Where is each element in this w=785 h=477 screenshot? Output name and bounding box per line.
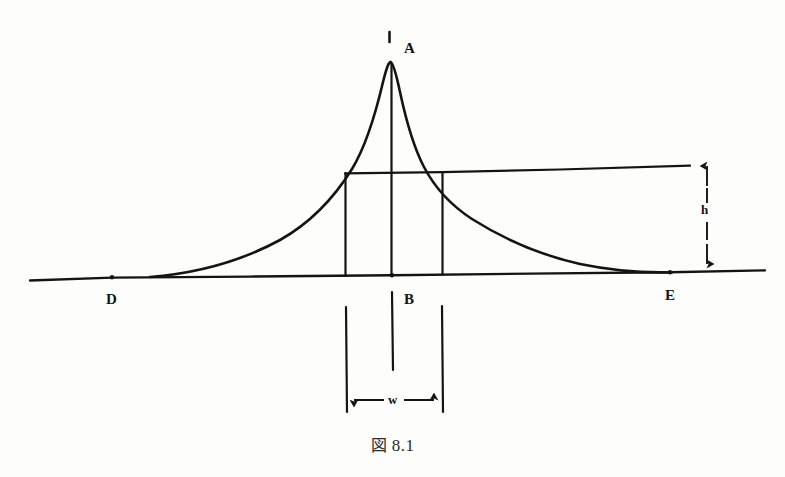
label-height-h: h	[701, 203, 708, 216]
label-point-e: E	[665, 288, 675, 303]
caption-symbol: 図	[371, 436, 388, 455]
label-point-b: B	[404, 292, 414, 307]
point-b-dot	[390, 273, 394, 277]
figure-panel: A B D E h w 図 8.1	[0, 0, 785, 477]
width-right-projection	[442, 306, 443, 412]
peak-center-axis-extension	[392, 292, 393, 370]
width-left-projection	[346, 307, 347, 412]
label-point-d: D	[106, 292, 117, 307]
label-point-a: A	[404, 41, 415, 56]
point-d-dot	[110, 275, 114, 279]
label-width-w: w	[388, 393, 397, 406]
half-height-line	[345, 166, 690, 174]
caption-number: 8.1	[392, 436, 415, 455]
point-e-dot	[668, 270, 672, 274]
figure-caption: 図 8.1	[0, 432, 785, 456]
